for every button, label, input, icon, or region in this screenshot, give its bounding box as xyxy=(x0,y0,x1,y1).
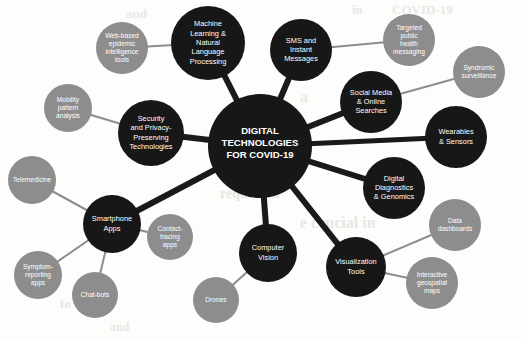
node-label-telemedicine: Telemedicine xyxy=(13,176,52,183)
node-label-line: Preserving xyxy=(133,133,168,142)
node-label-line: Social Media xyxy=(350,88,393,97)
node-label-line: Mobility xyxy=(57,95,80,103)
node-drones[interactable]: Drones xyxy=(193,277,239,323)
node-label-line: tracing xyxy=(160,233,180,241)
node-label-line: Machine xyxy=(194,19,222,28)
node-label-line: Technologies xyxy=(129,142,172,151)
node-label-line: DIGITAL xyxy=(241,125,279,136)
node-computer-vision[interactable]: ComputerVision xyxy=(239,224,297,282)
node-label-line: Wearables xyxy=(438,127,473,136)
node-hub[interactable]: DIGITALTECHNOLOGIESFOR COVID-19 xyxy=(208,94,312,198)
node-chat-bots[interactable]: Chat-bots xyxy=(72,272,118,318)
node-label-line: Data xyxy=(448,217,462,224)
node-label-line: Tools xyxy=(347,267,365,276)
node-machine-learning[interactable]: MachineLearning &NaturalLanguageProcessi… xyxy=(171,6,245,80)
node-label-line: Interactive xyxy=(417,270,448,277)
node-visualization-tools[interactable]: VisualizationTools xyxy=(326,237,386,297)
node-label-line: apps xyxy=(163,241,178,249)
node-label-line: Apps xyxy=(104,224,121,233)
node-label-line: & Genomics xyxy=(374,192,415,201)
node-digital-diagnostics-genomics[interactable]: DigitalDiagnostics& Genomics xyxy=(363,157,425,219)
network-diagram: andinCOVID-19arequires ae crucial intoan… xyxy=(0,0,521,341)
node-label-line: Messages xyxy=(284,54,318,63)
node-label-line: & Online xyxy=(357,97,385,106)
node-label-line: messaging xyxy=(393,48,425,56)
node-label-line: Natural xyxy=(196,38,220,47)
node-wearables-sensors[interactable]: Wearables& Sensors xyxy=(425,106,487,168)
node-telemedicine[interactable]: Telemedicine xyxy=(8,156,56,204)
node-label-line: intelligence xyxy=(106,48,139,56)
node-label-line: health xyxy=(400,40,418,47)
node-security-privacy[interactable]: Securityand Privacy-PreservingTechnologi… xyxy=(118,100,184,166)
node-label-line: reporting xyxy=(25,271,51,279)
node-label-line: Vision xyxy=(258,253,278,262)
node-label-line: Telemedicine xyxy=(13,176,52,183)
node-label-line: maps xyxy=(424,287,441,295)
node-label-line: FOR COVID-19 xyxy=(226,149,293,160)
node-data-dashboards[interactable]: Datadashboards xyxy=(429,199,481,251)
hub-node-layer: DIGITALTECHNOLOGIESFOR COVID-19 xyxy=(208,94,312,198)
node-targeted-public-health-messaging[interactable]: Targetedpublichealthmessaging xyxy=(383,14,435,66)
node-label-line: TECHNOLOGIES xyxy=(222,137,299,148)
node-label-drones: Drones xyxy=(205,296,227,303)
node-label-syndromic-surveillance: Syndromicsurveillance xyxy=(462,64,497,79)
node-syndromic-surveillance[interactable]: Syndromicsurveillance xyxy=(453,46,505,98)
node-label-line: pattern xyxy=(58,104,79,112)
node-label-line: analysis xyxy=(56,112,81,120)
node-label-line: Diagnostics xyxy=(375,183,414,192)
node-label-line: Chat-bots xyxy=(81,291,110,298)
node-contact-tracing-apps[interactable]: Contact-tracingapps xyxy=(147,214,193,260)
node-web-based-epidemic-intelligence-tools[interactable]: Web-basedepidemicintelligencetools xyxy=(96,22,148,74)
node-label-line: SMS and xyxy=(286,36,316,45)
node-label-line: Processing xyxy=(190,57,227,66)
node-label-line: Digital xyxy=(384,174,405,183)
node-label-line: epidemic xyxy=(109,40,136,48)
node-label-line: and Privacy- xyxy=(130,123,172,132)
node-mobility-pattern-analysis[interactable]: Mobilitypatternanalysis xyxy=(44,84,92,132)
node-label-line: Language xyxy=(192,47,225,56)
node-label-line: Smartphone xyxy=(92,214,132,223)
node-label-mobility-pattern-analysis: Mobilitypatternanalysis xyxy=(56,95,81,120)
node-label-line: Web-based xyxy=(105,31,139,38)
node-label-line: Learning & xyxy=(190,29,226,38)
network-graph-canvas: Web-basedepidemicintelligencetoolsTarget… xyxy=(0,0,521,341)
node-interactive-geospatial-maps[interactable]: Interactivegeospatialmaps xyxy=(406,257,458,309)
node-label-line: surveillance xyxy=(462,72,497,79)
node-label-line: Computer xyxy=(252,243,285,252)
node-label-line: dashboards xyxy=(438,225,473,232)
node-symptom-reporting-apps[interactable]: Symptom-reportingapps xyxy=(14,251,62,299)
node-label-line: geospatial xyxy=(417,279,448,287)
node-label-line: Instant xyxy=(290,45,312,54)
node-label-chat-bots: Chat-bots xyxy=(81,291,110,298)
node-label-line: Visualization xyxy=(335,257,376,266)
node-label-line: Security xyxy=(138,114,165,123)
node-label-wearables-sensors: Wearables& Sensors xyxy=(438,127,473,145)
node-label-line: & Sensors xyxy=(439,137,473,146)
node-label-line: Symptom- xyxy=(23,262,53,270)
node-sms-instant-messages[interactable]: SMS andInstantMessages xyxy=(270,19,332,81)
node-smartphone-apps[interactable]: SmartphoneApps xyxy=(83,195,141,253)
node-label-line: public xyxy=(400,32,418,40)
node-label-line: tools xyxy=(115,56,130,63)
node-label-line: Drones xyxy=(205,296,227,303)
node-label-line: Syndromic xyxy=(463,64,495,72)
node-social-media-online-searches[interactable]: Social Media& OnlineSearches xyxy=(340,71,402,133)
node-label-line: Targeted xyxy=(396,23,422,31)
node-label-line: Searches xyxy=(355,106,387,115)
node-label-line: apps xyxy=(31,279,46,287)
node-label-line: Contact- xyxy=(158,224,183,231)
